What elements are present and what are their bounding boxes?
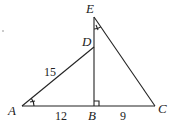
label-B: B <box>88 108 96 122</box>
right-angle-mark-B <box>94 101 99 106</box>
segment-EC <box>94 17 155 106</box>
stray-dot <box>2 30 4 32</box>
label-C: C <box>158 101 167 116</box>
label-A: A <box>7 103 16 118</box>
label-E: E <box>85 1 94 16</box>
angle-tick-A <box>30 101 35 102</box>
segment-AD <box>22 47 94 106</box>
length-AD: 15 <box>44 65 56 79</box>
length-AB: 12 <box>55 109 67 122</box>
geometry-diagram: E D A B C 15 12 9 <box>0 0 173 122</box>
label-D: D <box>81 34 92 49</box>
length-BC: 9 <box>120 109 126 122</box>
